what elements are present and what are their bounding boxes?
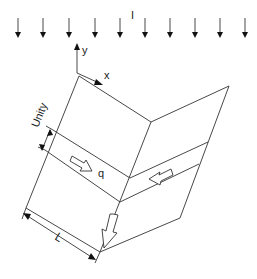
down-arrow-icon — [192, 18, 198, 38]
y-axis-label: y — [82, 44, 88, 56]
unity-label: Unity — [29, 101, 50, 129]
irradiance-arrows — [15, 18, 248, 38]
down-arrow-icon — [142, 18, 148, 38]
down-arrow-icon — [117, 18, 123, 38]
irradiance-label: I — [131, 9, 134, 21]
dimension-arrow-icon — [47, 129, 53, 136]
folded-plate-diagram: I y x Unity q — [0, 0, 257, 279]
flow-arrow-left-icon — [149, 169, 173, 185]
down-arrow-icon — [217, 18, 223, 38]
x-axis-arrow-icon — [94, 79, 103, 85]
down-arrow-icon — [66, 18, 72, 38]
dimension-arrow-icon — [23, 213, 31, 220]
flow-arrow-right-icon — [70, 156, 92, 171]
dimension-arrow-icon — [88, 253, 96, 260]
length-label: L — [52, 230, 65, 246]
flow-arrow-down-icon — [102, 214, 118, 248]
flow-label: q — [98, 167, 104, 179]
down-arrow-icon — [92, 18, 98, 38]
y-axis-arrow-icon — [74, 43, 80, 50]
down-arrow-icon — [167, 18, 173, 38]
x-axis-label: x — [104, 69, 110, 81]
down-arrow-icon — [15, 18, 21, 38]
right-plate — [100, 86, 229, 252]
down-arrow-icon — [242, 18, 248, 38]
down-arrow-icon — [40, 18, 46, 38]
